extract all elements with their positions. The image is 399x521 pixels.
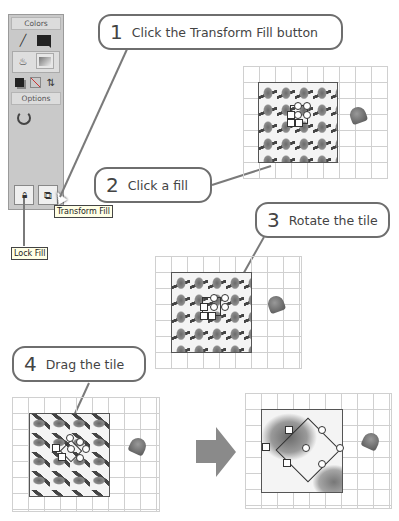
handle-rotate[interactable] (76, 454, 84, 462)
step-4-callout: 4 Drag the tile (12, 346, 146, 382)
step-2-callout: 2 Click a fill (94, 167, 212, 203)
handle-skew[interactable] (262, 443, 270, 451)
step-number: 4 (24, 352, 37, 376)
handle-rotate[interactable] (318, 426, 326, 434)
handle-scale[interactable] (200, 312, 208, 320)
handle-rotate[interactable] (303, 102, 311, 110)
handle-center[interactable] (210, 303, 218, 311)
handle-scale[interactable] (285, 426, 293, 434)
step-3-callout: 3 Rotate the tile (255, 202, 390, 238)
handle-center[interactable] (67, 445, 75, 453)
handle-rotate[interactable] (221, 294, 229, 302)
step-1-callout: 1 Click the Transform Fill button (98, 14, 343, 50)
handle-rotate[interactable] (318, 460, 326, 468)
handle-scale[interactable] (287, 119, 295, 127)
step-number: 2 (106, 173, 119, 197)
step-number: 1 (110, 20, 123, 44)
arrow-right-icon (196, 427, 236, 477)
step-number: 3 (267, 208, 280, 232)
handle-skew[interactable] (52, 444, 60, 452)
fill-tile-sample (360, 430, 381, 451)
handle-rotate[interactable] (66, 434, 74, 442)
handle-rotate[interactable] (221, 303, 229, 311)
stage-4-canvas (245, 393, 392, 509)
handle-scale[interactable] (283, 459, 291, 467)
handle-rotate[interactable] (294, 102, 302, 110)
fill-tile-sample (266, 294, 287, 315)
stage-1-canvas (243, 66, 388, 179)
step-text: Click the Transform Fill button (132, 25, 318, 40)
stage-2-canvas (155, 256, 302, 369)
handle-rotate[interactable] (82, 445, 90, 453)
handle-skew[interactable] (200, 303, 208, 311)
fill-tile-sample (127, 435, 148, 456)
stage-3-canvas (12, 397, 160, 512)
handle-rotate[interactable] (336, 444, 344, 452)
handle-scale[interactable] (208, 312, 216, 320)
handle-center[interactable] (294, 111, 302, 119)
fill-tile-sample (348, 105, 369, 126)
handle-center[interactable] (302, 444, 310, 452)
step-text: Click a fill (128, 178, 188, 193)
step-text: Rotate the tile (289, 213, 378, 228)
handle-rotate[interactable] (210, 294, 218, 302)
handle-scale[interactable] (58, 453, 66, 461)
step-text: Drag the tile (46, 357, 124, 372)
handle-scale[interactable] (295, 119, 303, 127)
handle-rotate[interactable] (303, 111, 311, 119)
